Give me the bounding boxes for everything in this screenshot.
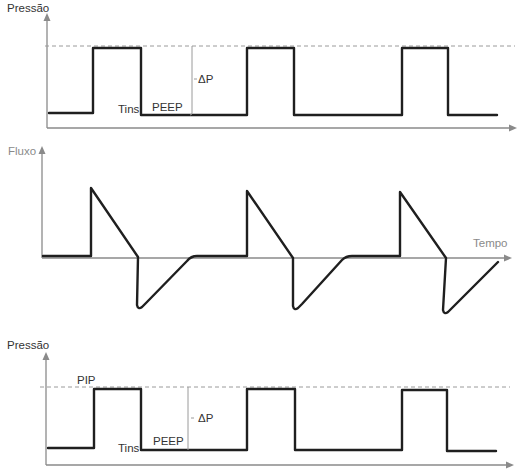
pip-label: PIP [77, 374, 96, 386]
x-axis-arrow-icon [506, 462, 514, 469]
pressure-panel-bottom: Pressão PIP ΔP Tins PEEP [7, 339, 514, 469]
pressure-waveform [48, 389, 496, 451]
peep-label: PEEP [152, 101, 183, 113]
pressure-axis-label: Pressão [7, 2, 49, 14]
flow-axis-label: Fluxo [8, 145, 36, 157]
pressure-waveform [49, 48, 497, 115]
y-axis-arrow-icon [39, 146, 46, 154]
tins-label: Tins [118, 103, 140, 115]
pressure-panel-top: Pressão ΔP Tins PEEP [7, 2, 517, 132]
delta-p-label: ΔP [198, 73, 214, 85]
peep-label: PEEP [153, 435, 184, 447]
flow-waveform [43, 188, 498, 313]
delta-p-marker [190, 46, 192, 115]
pressure-axis-label: Pressão [7, 339, 49, 351]
delta-p-label: ΔP [198, 412, 214, 424]
ventilation-waveforms-diagram: Pressão ΔP Tins PEEP Fluxo Tempo Pressão… [0, 0, 521, 471]
x-axis-arrow-icon [509, 125, 517, 132]
y-axis-arrow-icon [44, 13, 51, 21]
time-axis-label: Tempo [473, 237, 508, 249]
flow-panel: Fluxo Tempo [8, 145, 512, 313]
x-axis-arrow-icon [504, 255, 512, 262]
tins-label: Tins [118, 442, 140, 454]
y-axis-arrow-icon [43, 352, 50, 360]
